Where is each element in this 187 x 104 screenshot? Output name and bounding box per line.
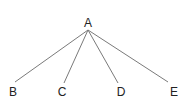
edge-a-e [88, 30, 168, 82]
node-b-label: B [9, 85, 17, 99]
node-d-label: D [117, 85, 126, 99]
node-e-label: E [170, 85, 178, 99]
edge-a-b [15, 30, 88, 82]
tree-diagram: A B C D E [0, 0, 187, 104]
node-c-label: C [58, 85, 67, 99]
edge-a-d [88, 30, 118, 83]
node-a-label: A [84, 16, 92, 30]
